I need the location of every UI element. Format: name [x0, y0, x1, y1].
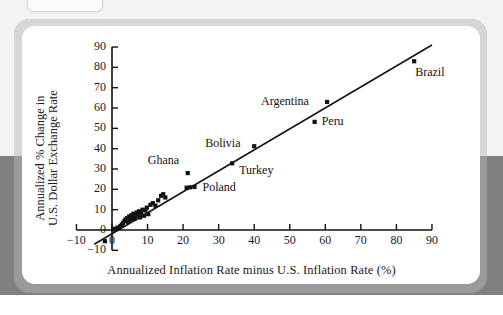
- data-point-marker: [188, 185, 192, 189]
- data-point-marker: [142, 214, 146, 218]
- point-label-ghana: Ghana: [148, 153, 179, 168]
- data-point-marker: [230, 161, 234, 165]
- x-tick-label: 0: [98, 233, 126, 248]
- y-tick-label: 60: [78, 100, 106, 115]
- y-tick-label: 30: [78, 161, 106, 176]
- data-point-marker: [138, 215, 142, 219]
- x-axis-label: Annualized Inflation Rate minus U.S. Inf…: [0, 263, 503, 278]
- y-tick-label: 20: [78, 181, 106, 196]
- data-point-marker: [192, 185, 196, 189]
- point-label-argentina: Argentina: [261, 94, 309, 109]
- y-tick-label: 50: [78, 120, 106, 135]
- x-tick-label: 30: [205, 233, 233, 248]
- y-tick-label: 90: [78, 39, 106, 54]
- x-tick-label: 60: [311, 233, 339, 248]
- data-point-marker: [146, 212, 150, 216]
- x-tick-label: 70: [347, 233, 375, 248]
- y-axis-label-line2: U.S. Dollar Exchange Rate: [47, 58, 60, 258]
- point-label-turkey: Turkey: [239, 163, 273, 178]
- data-points-group: [103, 59, 416, 243]
- data-point-marker: [325, 100, 329, 104]
- x-tick-label: 90: [418, 233, 446, 248]
- point-label-bolivia: Bolivia: [205, 136, 240, 151]
- data-point-marker: [313, 120, 317, 124]
- data-point-marker: [412, 59, 416, 63]
- y-axis-label: Annualized % Change in U.S. Dollar Excha…: [34, 58, 60, 258]
- data-point-marker: [156, 198, 160, 202]
- x-tick-label: 50: [276, 233, 304, 248]
- y-tick-label: 10: [78, 202, 106, 217]
- y-tick-label: 40: [78, 141, 106, 156]
- x-tick-label: 80: [382, 233, 410, 248]
- point-label-poland: Poland: [202, 180, 235, 195]
- x-tick-label: 40: [240, 233, 268, 248]
- point-label-brazil: Brazil: [415, 65, 444, 80]
- screenshot-root: −100102030405060708090−10010203040506070…: [0, 0, 503, 315]
- x-tick-label: 20: [169, 233, 197, 248]
- data-point-marker: [153, 204, 157, 208]
- data-point-marker: [163, 195, 167, 199]
- y-tick-label: 70: [78, 80, 106, 95]
- y-tick-label: 80: [78, 59, 106, 74]
- data-point-marker: [186, 171, 190, 175]
- x-tick-label: −10: [62, 233, 90, 248]
- point-label-peru: Peru: [322, 114, 344, 129]
- data-point-marker: [252, 144, 256, 148]
- x-tick-label: 10: [134, 233, 162, 248]
